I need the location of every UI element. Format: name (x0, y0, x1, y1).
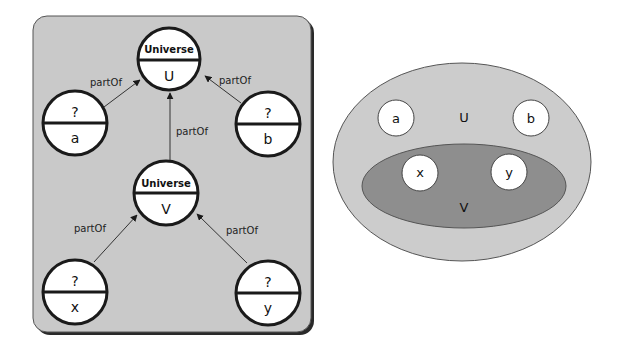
venn-label-V: V (460, 200, 469, 215)
node-b-name: b (264, 131, 273, 147)
edge-label-a-U: partOf (90, 77, 122, 88)
edge-label-b-U: partOf (219, 75, 251, 86)
node-y-type: ? (264, 274, 271, 290)
node-V-name: V (161, 201, 171, 217)
node-V[interactable]: Universe V (134, 161, 198, 225)
node-b[interactable]: ? b (236, 92, 300, 156)
node-U[interactable]: Universe U (138, 28, 200, 90)
venn-diagram: U a b V x y (333, 63, 591, 261)
node-x[interactable]: ? x (43, 260, 107, 324)
node-b-type: ? (264, 105, 271, 121)
node-a[interactable]: ? a (43, 91, 107, 155)
node-V-type: Universe (141, 178, 191, 189)
node-U-type: Universe (144, 44, 194, 55)
edge-label-x-V: partOf (74, 223, 106, 234)
venn-label-U: U (459, 110, 469, 125)
node-y[interactable]: ? y (236, 261, 300, 325)
node-a-name: a (71, 130, 80, 146)
node-y-name: y (264, 300, 272, 316)
venn-member-y-label: y (505, 165, 513, 180)
venn-member-a-label: a (392, 111, 400, 126)
venn-inner-ellipse-V (362, 144, 566, 228)
diagram-canvas: partOf partOf partOf partOf partOf Unive… (0, 0, 624, 356)
node-a-type: ? (71, 104, 78, 120)
node-x-name: x (71, 299, 79, 315)
edge-label-V-U: partOf (176, 126, 208, 137)
edge-label-y-V: partOf (226, 225, 258, 236)
venn-member-b-label: b (527, 111, 535, 126)
node-U-name: U (164, 68, 174, 84)
venn-member-x-label: x (416, 165, 424, 180)
node-x-type: ? (71, 273, 78, 289)
